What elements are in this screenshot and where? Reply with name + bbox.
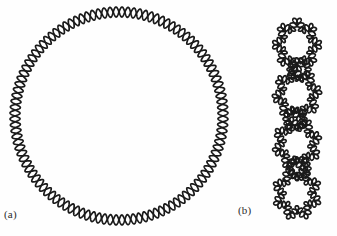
panel-a-braided-circle [10, 7, 228, 225]
figure-container: (a) (b) [0, 0, 337, 236]
panel-label-b: (b) [238, 204, 251, 216]
figure-svg [0, 0, 337, 236]
panel-b-braided-chain [272, 18, 321, 219]
panel-label-a: (a) [4, 208, 17, 220]
